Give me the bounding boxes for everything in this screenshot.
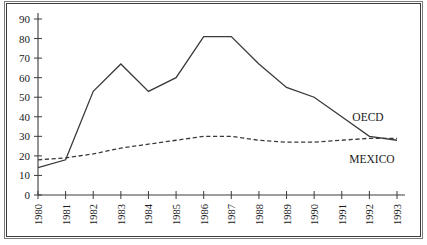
x-axis-tick-label: 1981: [61, 204, 72, 225]
x-axis-tick-label: 1980: [33, 204, 44, 225]
y-axis: 0102030405060708090: [19, 13, 42, 201]
x-axis-tick-label: 1982: [88, 204, 99, 225]
y-axis-tick-label: 60: [19, 72, 31, 84]
series-line-oecd: [38, 37, 397, 168]
legend-label-mexico: MEXICO: [349, 153, 394, 165]
figure-container: 0102030405060708090 19801981198219831984…: [0, 0, 427, 245]
y-axis-tick-label: 80: [19, 33, 31, 45]
x-axis-tick-label: 1986: [199, 204, 210, 225]
x-axis-tick-label: 1993: [392, 204, 403, 225]
legend-label-oecd: OECD: [352, 111, 383, 123]
y-axis-tick-label: 50: [19, 91, 31, 103]
x-axis: 1980198119821983198419851986198719881989…: [33, 191, 405, 225]
y-axis-tick-label: 70: [19, 52, 31, 64]
y-axis-tick-label: 0: [25, 189, 31, 201]
x-axis-tick-label: 1983: [116, 204, 127, 225]
x-axis-tick-label: 1988: [254, 204, 265, 225]
x-axis-tick-label: 1987: [226, 204, 237, 225]
line-chart: 0102030405060708090 19801981198219831984…: [0, 0, 427, 245]
x-axis-tick-label: 1985: [171, 204, 182, 225]
y-axis-tick-label: 40: [19, 111, 31, 123]
x-axis-tick-label: 1989: [282, 204, 293, 225]
x-axis-tick-label: 1984: [143, 203, 154, 225]
y-axis-tick-label: 20: [19, 150, 31, 162]
y-axis-tick-label: 10: [19, 169, 31, 181]
y-axis-tick-label: 30: [19, 130, 31, 142]
x-axis-tick-label: 1990: [309, 204, 320, 225]
y-axis-tick-label: 90: [19, 13, 31, 25]
series-line-mexico: [38, 136, 397, 159]
series-layer: [38, 37, 397, 168]
x-axis-tick-label: 1991: [337, 204, 348, 225]
x-axis-tick-label: 1992: [364, 204, 375, 225]
